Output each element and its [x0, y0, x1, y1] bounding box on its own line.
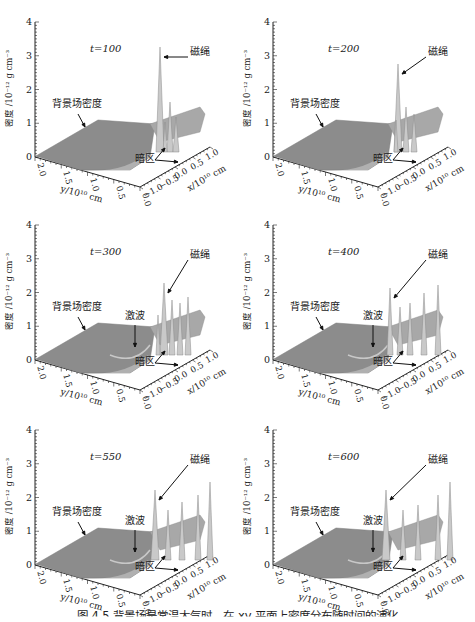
surface-plot-panel-3: t=300 磁绳 背景场密度 暗区 激波 密度 /10⁻¹² g cm⁻³ y/…: [0, 205, 237, 410]
y-tick-label: 0.5: [115, 185, 127, 200]
annotation-flux-rope: 磁绳: [428, 47, 448, 57]
figure-caption: 图 4.5 背景场是常温大气时，在 xy 平面上密度分布随时间的演化: [0, 607, 475, 622]
annotation-dark-region: 暗区: [135, 357, 155, 367]
y-tick-label: 2.0: [36, 365, 48, 380]
z-tick-label: 0: [26, 152, 32, 162]
y-tick-label: 0.5: [115, 388, 127, 403]
annotation-flux-rope: 磁绳: [190, 455, 210, 465]
z-tick-label: 3: [264, 254, 270, 264]
annotation-flux-rope: 磁绳: [428, 250, 448, 260]
z-tick-label: 4: [26, 17, 32, 27]
z-axis-label: 密度 /10⁻¹² g cm⁻³: [240, 253, 252, 330]
z-tick-label: 0: [26, 560, 32, 570]
annotation-shock: 激波: [125, 516, 145, 526]
z-tick-label: 3: [26, 254, 32, 264]
annotation-shock: 激波: [363, 311, 383, 321]
annotation-background-density: 背景场密度: [290, 99, 340, 109]
panel-title: t=600: [328, 452, 359, 462]
z-tick-label: 3: [26, 459, 32, 469]
annotation-dark-region: 暗区: [135, 154, 155, 164]
z-tick-label: 2: [264, 493, 270, 503]
y-tick-label: 2.0: [36, 162, 48, 177]
z-axis-label: 密度 /10⁻¹² g cm⁻³: [2, 458, 14, 535]
z-tick-label: 1: [264, 118, 270, 128]
annotation-shock: 激波: [363, 516, 383, 526]
z-tick-label: 1: [26, 526, 32, 536]
z-tick-label: 0: [264, 355, 270, 365]
annotation-flux-rope: 磁绳: [190, 250, 210, 260]
y-tick-label: 2.0: [36, 570, 48, 585]
y-tick-label: 2.0: [274, 162, 286, 177]
z-tick-label: 4: [264, 17, 270, 27]
surface-plot-panel-2: t=200 磁绳 背景场密度 暗区 密度 /10⁻¹² g cm⁻³ y/10¹…: [238, 2, 475, 207]
z-tick-label: 2: [264, 288, 270, 298]
z-axis-label: 密度 /10⁻¹² g cm⁻³: [2, 50, 14, 127]
panel-title: t=100: [90, 44, 121, 54]
z-axis-label: 密度 /10⁻¹² g cm⁻³: [240, 50, 252, 127]
z-tick-label: 0: [26, 355, 32, 365]
annotation-background-density: 背景场密度: [52, 302, 102, 312]
surface-plot-panel-4: t=400 磁绳 背景场密度 暗区 激波 密度 /10⁻¹² g cm⁻³ y/…: [238, 205, 475, 410]
annotation-dark-region: 暗区: [373, 562, 393, 572]
z-tick-label: 4: [26, 220, 32, 230]
z-tick-label: 0: [264, 152, 270, 162]
annotation-background-density: 背景场密度: [290, 507, 340, 517]
annotation-flux-rope: 磁绳: [428, 455, 448, 465]
annotation-shock: 激波: [125, 311, 145, 321]
y-tick-label: 0.5: [353, 593, 365, 608]
y-tick-label: 0.5: [115, 593, 127, 608]
panel-title: t=300: [90, 247, 121, 257]
z-tick-label: 4: [264, 425, 270, 435]
z-tick-label: 1: [26, 118, 32, 128]
z-tick-label: 3: [26, 51, 32, 61]
z-tick-label: 4: [26, 425, 32, 435]
annotation-flux-rope: 磁绳: [190, 47, 210, 57]
surface-plot-panel-1: t=100 磁绳 背景场密度 暗区 密度 /10⁻¹² g cm⁻³ y/10¹…: [0, 2, 237, 207]
y-tick-label: 2.0: [274, 365, 286, 380]
annotation-background-density: 背景场密度: [290, 302, 340, 312]
y-tick-label: 2.0: [274, 570, 286, 585]
y-tick-label: 0.5: [353, 185, 365, 200]
annotation-dark-region: 暗区: [373, 357, 393, 367]
annotation-background-density: 背景场密度: [52, 507, 102, 517]
y-tick-label: 0.5: [353, 388, 365, 403]
z-tick-label: 1: [264, 321, 270, 331]
panel-title: t=200: [328, 44, 359, 54]
surface-plot-panel-5: t=550 磁绳 背景场密度 暗区 激波 密度 /10⁻¹² g cm⁻³ y/…: [0, 410, 237, 615]
panel-title: t=550: [90, 452, 121, 462]
z-tick-label: 1: [26, 321, 32, 331]
annotation-background-density: 背景场密度: [52, 99, 102, 109]
annotation-dark-region: 暗区: [135, 562, 155, 572]
z-tick-label: 4: [264, 220, 270, 230]
z-axis-label: 密度 /10⁻¹² g cm⁻³: [240, 458, 252, 535]
z-tick-label: 1: [264, 526, 270, 536]
annotation-dark-region: 暗区: [373, 154, 393, 164]
surface-plot-panel-6: t=600 磁绳 背景场密度 暗区 激波 密度 /10⁻¹² g cm⁻³ y/…: [238, 410, 475, 615]
z-tick-label: 0: [264, 560, 270, 570]
z-tick-label: 2: [26, 85, 32, 95]
z-tick-label: 3: [264, 459, 270, 469]
z-tick-label: 2: [26, 493, 32, 503]
z-tick-label: 3: [264, 51, 270, 61]
panel-title: t=400: [328, 247, 359, 257]
z-tick-label: 2: [26, 288, 32, 298]
z-tick-label: 2: [264, 85, 270, 95]
z-axis-label: 密度 /10⁻¹² g cm⁻³: [2, 253, 14, 330]
